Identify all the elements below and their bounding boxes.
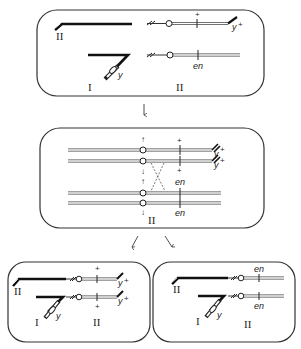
- marker-plus-2: +: [177, 166, 182, 175]
- label-y: y: [55, 311, 61, 321]
- eu-chromosome-II-upper: + y +: [66, 264, 129, 288]
- label-y-plus-1: y: [117, 278, 123, 288]
- label-y: y: [216, 310, 222, 320]
- panel-bottom-left: II + y + y I: [8, 262, 150, 342]
- panel-bottom-right-border: [153, 262, 295, 342]
- eu-chromosome-II-lower: en: [228, 292, 284, 311]
- strand-2: + y + ↓: [68, 155, 225, 176]
- panel-middle-border: [40, 128, 264, 228]
- label-het-II: II: [14, 285, 22, 297]
- eu-chromosome-II-lower: + y +: [66, 291, 129, 311]
- label-I: I: [35, 316, 39, 328]
- chromosome-I: y I: [88, 55, 128, 93]
- sup-1: +: [124, 276, 129, 285]
- panel-bottom-left-border: [8, 262, 150, 342]
- strand-1: + y + ↑: [68, 135, 225, 159]
- chromosome-I: y I: [196, 296, 224, 327]
- label-en-2: en: [175, 208, 185, 218]
- diagram-canvas: II y I + y +: [0, 0, 301, 349]
- sup-2: +: [220, 156, 225, 165]
- strand-4: en ↓: [68, 198, 221, 218]
- crossover: [151, 163, 165, 191]
- het-chromosome-II: II: [171, 278, 228, 295]
- eu-chromosome-II-lower: en II: [147, 50, 240, 93]
- label-II-middle: II: [148, 214, 156, 226]
- arrow-down-2: ↓: [141, 208, 145, 217]
- arrow-to-bottom-right: [165, 236, 172, 247]
- arrow-up-2: ↑: [141, 177, 145, 186]
- label-het-II: II: [56, 30, 64, 42]
- label-en-2: en: [254, 301, 264, 311]
- marker-plus-2: +: [95, 302, 100, 311]
- het-chromosome-II: II: [54, 24, 132, 42]
- label-y: y: [117, 70, 123, 80]
- marker-plus-1: +: [95, 264, 100, 273]
- marker-plus-1: +: [177, 136, 182, 145]
- label-y-plus: y: [231, 22, 237, 32]
- eu-chromosome-II-upper: + y +: [147, 10, 243, 32]
- label-en: en: [193, 61, 203, 71]
- label-en-1: en: [175, 177, 185, 187]
- sup-1: +: [220, 145, 225, 154]
- panel-bottom-right: II en y I en II: [153, 262, 295, 342]
- het-chromosome-II: II: [12, 279, 66, 297]
- label-y-plus-2: y: [213, 160, 219, 170]
- arrow-down-1: ↓: [141, 167, 145, 176]
- panel-top: II y I + y +: [37, 10, 264, 96]
- label-y-plus-2: y: [117, 296, 123, 306]
- strand-3: [68, 188, 221, 198]
- marker-plus: +: [195, 10, 200, 19]
- panel-middle: + y + ↑ + y + ↓ en ↑: [40, 128, 264, 228]
- eu-chromosome-II-upper: en: [228, 264, 284, 282]
- label-I: I: [88, 81, 92, 93]
- label-y-plus-sup: +: [238, 20, 243, 29]
- label-het-II: II: [173, 283, 181, 295]
- arrow-up-1: ↑: [141, 135, 145, 144]
- label-I: I: [196, 315, 200, 327]
- chromosome-I: y I: [35, 297, 63, 328]
- label-II: II: [93, 316, 101, 328]
- sup-2: +: [124, 294, 129, 303]
- label-II: II: [176, 81, 184, 93]
- arrow-to-bottom-left: [132, 236, 138, 247]
- label-II: II: [244, 318, 252, 330]
- label-en-1: en: [254, 264, 264, 274]
